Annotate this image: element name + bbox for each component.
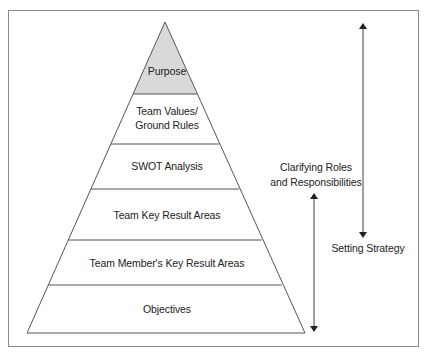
layer-label-team-kra: Team Key Result Areas bbox=[113, 208, 220, 222]
layer-label-member-kra: Team Member's Key Result Areas bbox=[90, 256, 245, 270]
clarifying-roles-label-line2: and Responsibilities bbox=[270, 175, 361, 189]
layer-label-purpose: Purpose bbox=[148, 64, 186, 78]
pyramid-diagram bbox=[0, 0, 427, 353]
layer-label-ground-rules: Ground Rules bbox=[135, 118, 199, 132]
layer-label-team-values: Team Values/ bbox=[136, 104, 198, 118]
pyramid-layer-purpose bbox=[133, 22, 197, 94]
layer-label-objectives: Objectives bbox=[143, 302, 191, 316]
clarifying-roles-label-line1: Clarifying Roles bbox=[280, 160, 352, 174]
setting-strategy-label: Setting Strategy bbox=[331, 241, 404, 255]
layer-label-swot: SWOT Analysis bbox=[131, 159, 202, 173]
